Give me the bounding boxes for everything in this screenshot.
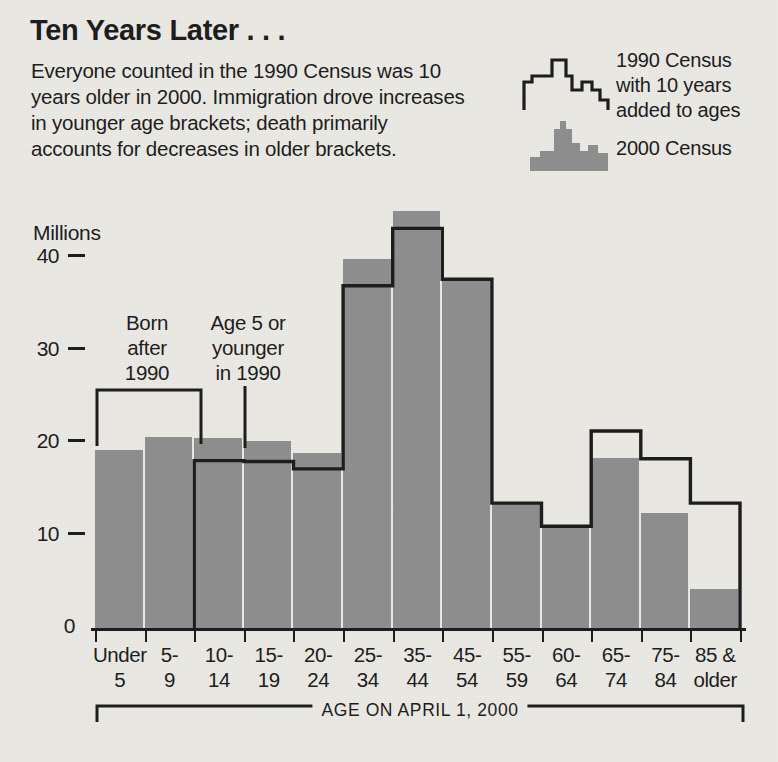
x-axis-line [91, 628, 746, 631]
x-tickmark-8 [492, 631, 494, 642]
intro-line-1: Everyone counted in the 1990 Census was … [31, 58, 551, 84]
y-axis-unit-label: Millions [33, 221, 101, 245]
x-tickmark-0 [95, 631, 97, 642]
annotation-1-line-1: Age 5 or [190, 310, 306, 335]
page-title: Ten Years Later . . . [30, 14, 285, 47]
legend-label-2000: 2000 Census [616, 137, 732, 160]
y-tick-10: 10 [37, 522, 85, 546]
legend-label-1990-line-3: added to ages [616, 98, 776, 123]
skyline-outline-icon [522, 54, 612, 112]
intro-line-2: years older in 2000. Immigration drove i… [31, 84, 551, 110]
x-label-line-2: older [676, 667, 754, 692]
y-tick-30: 30 [37, 337, 85, 361]
x-tickmark-4 [293, 631, 295, 642]
y-tick-0: 0 [64, 614, 75, 638]
x-tickmark-1 [145, 631, 147, 642]
legend-label-1990-line-1: 1990 Census [616, 48, 776, 73]
x-axis-caption-bracket: AGE ON APRIL 1, 2000 [95, 702, 745, 732]
annotation-1-leader [242, 386, 250, 450]
x-tickmark-12 [690, 631, 692, 642]
x-tickmark-5 [343, 631, 345, 642]
bar-chart: Millions 403020100 Under55-910-1415-1920… [0, 190, 778, 762]
annotation-0-line-2: after [103, 335, 191, 360]
skyline-filled-icon [530, 121, 608, 171]
annotation-1-line-3: in 1990 [190, 360, 306, 385]
x-tickmark-3 [244, 631, 246, 642]
y-tick-40: 40 [37, 244, 85, 268]
x-tickmark-10 [591, 631, 593, 642]
legend: 1990 Census with 10 years added to ages … [512, 42, 774, 177]
x-label-85-older: 85 &older [676, 642, 754, 692]
x-label-line-1: 85 & [676, 642, 754, 667]
legend-label-1990: 1990 Census with 10 years added to ages [616, 48, 776, 123]
annotation-0-line-3: 1990 [103, 360, 191, 385]
annotation-born-after-1990: Born after 1990 [103, 310, 191, 385]
x-axis-caption-text: AGE ON APRIL 1, 2000 [312, 700, 527, 721]
annotation-0-line-1: Born [103, 310, 191, 335]
x-tickmark-6 [393, 631, 395, 642]
x-tickmark-11 [641, 631, 643, 642]
x-tickmark-2 [194, 631, 196, 642]
x-tickmark-9 [542, 631, 544, 642]
x-tickmark-7 [442, 631, 444, 642]
header: Ten Years Later . . . Everyone counted i… [0, 0, 778, 190]
intro-paragraph: Everyone counted in the 1990 Census was … [31, 58, 551, 162]
annotation-age-5-or-younger-in-1990: Age 5 or younger in 1990 [190, 310, 306, 385]
annotation-0-leader [95, 386, 205, 448]
x-tickmark-13 [740, 631, 742, 642]
intro-line-4: accounts for decreases in older brackets… [31, 136, 551, 162]
annotation-1-line-2: younger [190, 335, 306, 360]
intro-line-3: in younger age brackets; death primarily [31, 110, 551, 136]
y-tick-20: 20 [37, 429, 85, 453]
legend-label-1990-line-2: with 10 years [616, 73, 776, 98]
